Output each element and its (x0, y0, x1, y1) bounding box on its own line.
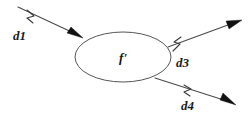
arrow-head-d1-icon (67, 27, 83, 38)
data-flow-diagram: d1 f' d3 d4 (0, 0, 251, 118)
arrow-head-d3-icon (226, 20, 242, 29)
flow-d3[interactable]: d3 (168, 20, 242, 70)
flow-label-d1: d1 (13, 28, 26, 43)
arrow-head-d4-icon (220, 93, 236, 105)
process-node[interactable]: f' (75, 32, 171, 82)
flow-label-d3: d3 (176, 55, 190, 70)
flow-d1[interactable]: d1 (13, 7, 83, 43)
process-label: f' (119, 50, 127, 65)
flow-d4[interactable]: d4 (155, 78, 236, 113)
tick-mark-d4-icon (184, 85, 191, 96)
flow-label-d4: d4 (181, 98, 195, 113)
diagram-canvas: d1 f' d3 d4 (0, 0, 251, 118)
